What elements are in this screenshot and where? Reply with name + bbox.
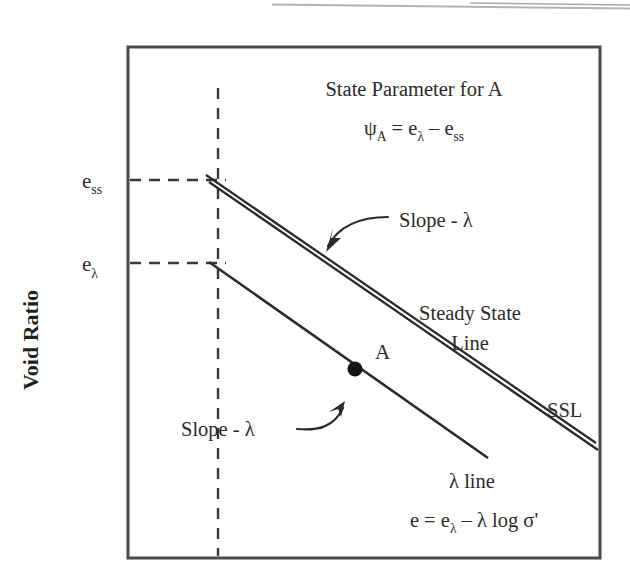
lambda-equation-tail: – λ log σ' xyxy=(456,509,538,532)
y-axis-title: Void Ratio xyxy=(18,290,43,390)
tick-label-elambda-subscript: λ xyxy=(91,266,98,281)
tick-label-elambda-base: e xyxy=(82,252,91,276)
slope-label-lower: Slope - λ xyxy=(181,418,255,441)
point-a-marker xyxy=(348,362,363,377)
point-a-label: A xyxy=(375,340,391,364)
lambda-line-label: λ line xyxy=(449,470,495,492)
lambda-equation-head: e = e xyxy=(410,509,450,531)
state-parameter-title: State Parameter for A xyxy=(325,78,502,100)
figure-background xyxy=(0,0,630,571)
tick-label-ess-base: e xyxy=(82,169,91,193)
figure-root: Void Ratio ess eλ State Parameter for A … xyxy=(0,0,630,571)
formula-e-ss-subscript: ss xyxy=(454,129,465,144)
slope-label-upper: Slope - λ xyxy=(399,209,473,232)
formula-psi: ψ xyxy=(364,117,377,140)
tick-label-ess-subscript: ss xyxy=(91,182,102,197)
state-parameter-diagram: Void Ratio ess eλ State Parameter for A … xyxy=(0,0,630,571)
formula-equals-e: = e xyxy=(386,117,417,139)
formula-psi-subscript: A xyxy=(377,129,387,144)
steady-state-line-label-1: Steady State xyxy=(419,302,521,325)
steady-state-line-label-2: Line xyxy=(451,332,489,354)
ssl-label: SSL xyxy=(547,399,582,421)
formula-minus-e: – e xyxy=(424,117,454,139)
